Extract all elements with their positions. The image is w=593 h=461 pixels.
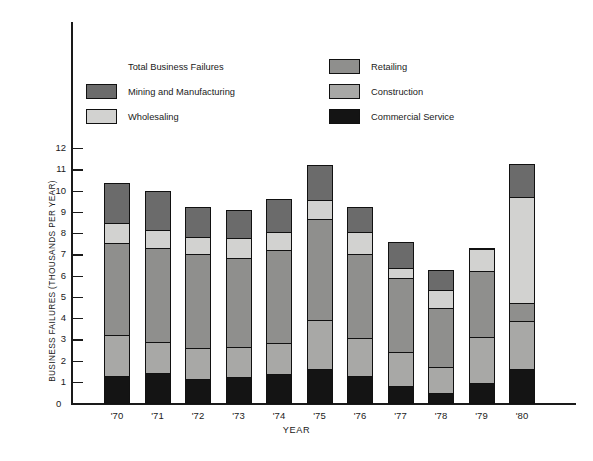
bar-72[interactable]: [185, 207, 211, 404]
y-axis-tick-mark: [72, 297, 83, 298]
x-axis-tick-label: '74: [259, 410, 299, 421]
bar-segment-construction: [185, 348, 211, 380]
bar-segment-construction: [266, 343, 292, 376]
bar-77[interactable]: [388, 242, 414, 404]
bar-73[interactable]: [226, 210, 252, 404]
x-axis-tick-label: '72: [178, 410, 218, 421]
legend-swatch-commercial-service: [329, 109, 360, 124]
bar-segment-commercial-service: [307, 369, 333, 404]
bar-segment-construction: [104, 335, 130, 378]
bar-segment-wholesaling: [509, 197, 535, 304]
y-axis-tick-label: 6: [61, 270, 66, 281]
bar-segment-mining-and-manufacturing: [307, 165, 333, 201]
y-axis-tick-label: 9: [61, 206, 66, 217]
y-axis-tick-mark: [72, 318, 83, 319]
bar-segment-mining-and-manufacturing: [266, 199, 292, 233]
x-axis-tick-label: '80: [502, 410, 542, 421]
bar-segment-retailing: [226, 258, 252, 348]
bar-segment-mining-and-manufacturing: [428, 270, 454, 291]
bar-segment-construction: [388, 352, 414, 387]
y-axis-tick-label: 8: [61, 227, 66, 238]
y-axis-tick-label: 10: [55, 185, 66, 196]
bar-78[interactable]: [428, 270, 454, 404]
y-axis-tick-label: 2: [61, 355, 66, 366]
bar-segment-wholesaling: [145, 230, 171, 250]
bar-segment-retailing: [185, 254, 211, 350]
bar-segment-commercial-service: [226, 377, 252, 404]
bar-70[interactable]: [104, 183, 130, 404]
bar-segment-construction: [509, 321, 535, 370]
y-axis-tick-mark: [72, 254, 83, 255]
bar-segment-commercial-service: [185, 379, 211, 405]
bar-segment-retailing: [266, 250, 292, 345]
legend-heading: Total Business Failures: [86, 54, 235, 79]
y-axis-title: BUSINESS FAILURES (THOUSANDS PER YEAR): [47, 141, 57, 421]
legend-column-right: RetailingConstructionCommercial Service: [329, 54, 454, 129]
bar-segment-retailing: [145, 248, 171, 343]
legend-item-retailing[interactable]: Retailing: [329, 54, 454, 79]
legend-item-wholesaling[interactable]: Wholesaling: [86, 104, 235, 129]
y-axis-tick-label: 11: [56, 163, 66, 174]
y-axis-tick-mark: [72, 169, 83, 170]
bar-segment-wholesaling: [469, 249, 495, 272]
x-axis-tick-label: '78: [421, 410, 461, 421]
y-axis-tick-mark: [72, 382, 83, 383]
bar-segment-commercial-service: [266, 374, 292, 404]
bar-segment-mining-and-manufacturing: [509, 164, 535, 198]
y-axis-tick-mark: [72, 361, 83, 362]
x-axis-tick-label: '73: [219, 410, 259, 421]
bar-segment-retailing: [104, 243, 130, 337]
bar-segment-mining-and-manufacturing: [104, 183, 130, 224]
bar-segment-commercial-service: [104, 376, 130, 404]
bar-segment-wholesaling: [347, 232, 373, 255]
bar-segment-commercial-service: [428, 393, 454, 404]
x-axis-tick-label: '77: [381, 410, 421, 421]
bar-segment-construction: [226, 347, 252, 379]
bar-80[interactable]: [509, 164, 535, 404]
bar-74[interactable]: [266, 199, 292, 404]
y-axis-tick-label: 1: [61, 376, 66, 387]
legend-item-label: Retailing: [371, 62, 407, 72]
bar-segment-retailing: [388, 278, 414, 353]
y-axis-tick-mark: [72, 233, 83, 234]
legend-left-items: Mining and ManufacturingWholesaling: [86, 79, 235, 129]
y-axis-tick-mark: [72, 191, 83, 192]
legend-item-label: Construction: [371, 87, 423, 97]
bar-76[interactable]: [347, 207, 373, 404]
y-axis-tick-label: 5: [61, 291, 66, 302]
x-axis-tick-label: '79: [462, 410, 502, 421]
bar-segment-construction: [307, 320, 333, 370]
bar-71[interactable]: [145, 191, 171, 404]
x-axis-title: YEAR: [0, 425, 593, 435]
bar-segment-wholesaling: [266, 232, 292, 251]
bar-75[interactable]: [307, 165, 333, 404]
y-axis-tick-mark: [72, 212, 83, 213]
y-axis-tick-mark: [72, 276, 83, 277]
bar-segment-wholesaling: [185, 237, 211, 255]
legend-item-commercial-service[interactable]: Commercial Service: [329, 104, 454, 129]
legend-item-mining-and-manufacturing[interactable]: Mining and Manufacturing: [86, 79, 235, 104]
bar-segment-mining-and-manufacturing: [388, 242, 414, 270]
y-axis-tick-mark: [72, 148, 83, 149]
bar-segment-wholesaling: [307, 200, 333, 220]
x-axis-tick-label: '71: [138, 410, 178, 421]
bar-79[interactable]: [469, 248, 495, 404]
bar-segment-commercial-service: [469, 383, 495, 404]
stacked-bar-chart: BUSINESS FAILURES (THOUSANDS PER YEAR) 1…: [0, 0, 593, 461]
y-axis-tick-mark: [72, 339, 83, 340]
bar-segment-commercial-service: [509, 369, 535, 404]
bar-segment-construction: [347, 338, 373, 377]
y-axis-tick-label: 7: [61, 248, 66, 259]
y-axis-tick-label: 3: [61, 333, 66, 344]
bar-segment-retailing: [509, 303, 535, 323]
legend-item-label: Commercial Service: [371, 112, 454, 122]
legend-item-construction[interactable]: Construction: [329, 79, 454, 104]
x-axis-tick-label: '75: [300, 410, 340, 421]
legend-item-label: Wholesaling: [128, 112, 179, 122]
legend-column-left: Total Business Failures Mining and Manuf…: [86, 54, 235, 129]
bar-segment-mining-and-manufacturing: [185, 207, 211, 239]
bar-segment-mining-and-manufacturing: [347, 207, 373, 234]
bar-segment-retailing: [469, 271, 495, 339]
x-axis-tick-label: '70: [97, 410, 137, 421]
bar-segment-commercial-service: [388, 386, 414, 404]
